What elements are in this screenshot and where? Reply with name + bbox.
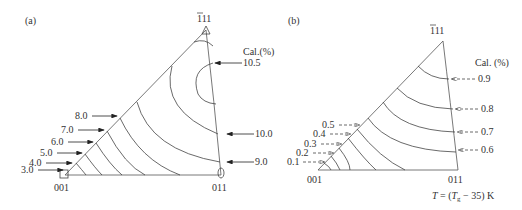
- value-8.0: 8.0: [75, 110, 88, 121]
- contour-0.6: [368, 118, 456, 152]
- triangle-edge-right-b: [443, 41, 458, 170]
- contour-0.1: [324, 163, 331, 170]
- contour-0.9: [418, 66, 449, 79]
- triangle-edge-left: [65, 30, 206, 175]
- pole-111-label-b: 111: [430, 25, 444, 36]
- value-3.0: 3.0: [21, 164, 34, 175]
- value-0.9: 0.9: [478, 73, 491, 84]
- contour-0.4: [348, 138, 376, 170]
- contour-5.0: [85, 154, 102, 175]
- contour-0.3: [339, 148, 350, 170]
- value-5.0: 5.0: [40, 147, 53, 158]
- temperature-caption: T = (Tg − 35) K: [432, 190, 495, 203]
- contour-8.0: [120, 118, 180, 175]
- pole-011-label: 011: [212, 182, 227, 193]
- panel-b: (b) 111 0.5 0.4 0.3 0.2 0.1 Cal. (%) 0.9…: [287, 15, 509, 203]
- contour-0.8: [397, 88, 453, 109]
- contour-7.0: [107, 131, 145, 175]
- pole-001-label-b: 001: [307, 174, 322, 185]
- value-0.7: 0.7: [481, 126, 494, 137]
- pole-111-label: 111: [197, 13, 211, 24]
- contour-9.0: [137, 102, 220, 162]
- value-9.0: 9.0: [255, 156, 268, 167]
- panel-a: (a) 111 8.0 7.0 6.0 5.0 4.0 3.0 C: [21, 13, 274, 193]
- contour-4.0: [76, 163, 86, 175]
- contour-10.5: [196, 63, 216, 104]
- legend-title-b: Cal. (%): [475, 57, 509, 69]
- square-marker-001: [60, 170, 68, 178]
- value-0.1: 0.1: [287, 156, 300, 167]
- value-6.0: 6.0: [51, 136, 64, 147]
- value-10.5: 10.5: [243, 57, 261, 68]
- panel-b-label: (b): [288, 15, 300, 27]
- value-7.0: 7.0: [61, 124, 74, 135]
- contour: [194, 41, 213, 46]
- panel-a-label: (a): [25, 15, 36, 27]
- contour-6.0: [96, 143, 122, 175]
- triangle-edge-left-b: [318, 41, 443, 170]
- pole-001-label: 001: [54, 182, 69, 193]
- value-0.8: 0.8: [481, 103, 494, 114]
- contour-0.5: [357, 129, 405, 170]
- contour-0.7: [383, 102, 455, 132]
- value-0.6: 0.6: [481, 144, 494, 155]
- value-10.0: 10.0: [255, 128, 273, 139]
- pole-011-label-b: 011: [448, 174, 463, 185]
- contour-0.2: [331, 156, 340, 170]
- figure: (a) 111 8.0 7.0 6.0 5.0 4.0 3.0 C: [0, 0, 522, 210]
